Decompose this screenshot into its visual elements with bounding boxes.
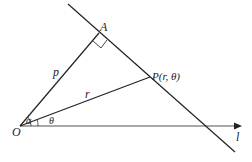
axis-arrow-icon (234, 123, 242, 130)
segment-op (20, 77, 150, 126)
segment-label-r: r (85, 87, 90, 101)
axis-label-l: l (236, 130, 240, 144)
angle-arc-theta (37, 119, 38, 126)
right-angle-marker (93, 40, 107, 48)
segment-label-p: p (52, 65, 59, 79)
point-label-p: P(r, θ) (151, 70, 180, 83)
polar-line-diagram: O A P(r, θ) p r α θ l (0, 0, 252, 162)
segment-oa (20, 33, 99, 126)
angle-label-theta: θ (49, 115, 54, 126)
point-label-o: O (12, 125, 21, 139)
angle-label-alpha: α (26, 115, 32, 126)
point-label-a: A (99, 20, 108, 34)
